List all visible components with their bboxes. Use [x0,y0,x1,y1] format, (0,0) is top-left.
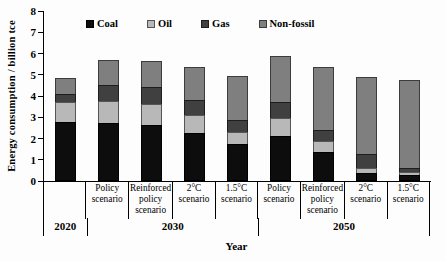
bar-segment-coal [98,123,119,181]
bar-segment-coal [270,136,291,181]
bar-segment-non-fossil [227,76,248,122]
legend-label: Coal [97,18,118,29]
scenario-cell: Policy scenario [258,181,300,219]
bar-segment-coal [356,173,377,182]
y-tick-mark [38,138,43,139]
y-tick-label: 1 [31,154,37,165]
y-tick-mark [38,32,43,33]
bar-slot [388,11,431,181]
bar-slot [259,11,302,181]
bar-slot [87,11,130,181]
legend-label: Non-fossil [270,18,315,29]
y-tick-mark [38,159,43,160]
bar-segment-gas [270,102,291,119]
legend: CoalOilGasNon-fossil [86,18,314,29]
bar-segment-non-fossil [184,67,205,101]
y-tick-mark [38,53,43,54]
bar-segment-non-fossil [98,60,119,87]
stacked-bar [270,57,291,181]
legend-swatch-oil-icon [147,20,155,28]
legend-item: Non-fossil [259,18,315,29]
year-row: 202020302050 [43,218,430,236]
legend-item: Oil [147,18,172,29]
y-tick-label: 0 [31,176,37,187]
scenario-cell: 2°C scenario [173,181,215,219]
bar-segment-non-fossil [270,56,291,104]
legend-swatch-coal-icon [86,20,94,28]
bar-segment-coal [184,133,205,181]
y-tick-mark [38,11,43,12]
stacked-bar [399,81,420,181]
y-tick-mark [38,117,43,118]
bar-segment-oil [270,118,291,137]
legend-label: Oil [158,18,172,29]
legend-swatch-non-fossil-icon [259,20,267,28]
y-tick-label: 7 [31,27,37,38]
y-tick-label: 8 [31,6,37,17]
bar-segment-coal [227,144,248,181]
scenario-cell: 1.5°C scenario [388,181,430,219]
bar-slot [130,11,173,181]
bar-segment-oil [184,115,205,134]
bar-segment-coal [55,122,76,182]
bar-segment-coal [141,125,162,181]
stacked-bar [227,77,248,181]
y-axis-label: Energy consumption / billion tce [6,20,17,172]
plot-area: CoalOilGasNon-fossil 012345678 [43,11,431,182]
bars-layer [44,11,431,181]
year-cell: 2050 [259,218,430,236]
stacked-bar [184,68,205,181]
y-tick-label: 2 [31,133,37,144]
bar-segment-oil [141,104,162,125]
stacked-bar [141,62,162,181]
y-tick-mark [38,74,43,75]
legend-item: Coal [86,18,118,29]
energy-consumption-chart: Energy consumption / billion tce CoalOil… [0,0,446,261]
scenario-cell: Reinforced policy scenario [301,181,345,219]
bar-segment-non-fossil [313,67,334,131]
bar-segment-non-fossil [356,77,377,156]
bar-segment-gas [98,85,119,102]
y-tick-label: 6 [31,48,37,59]
y-tick-mark [38,96,43,97]
y-tick-label: 3 [31,112,37,123]
y-tick-label: 5 [31,69,37,80]
bar-segment-gas [141,87,162,105]
bar-segment-oil [98,101,119,123]
bar-segment-non-fossil [141,61,162,89]
year-cell: 2020 [44,218,88,236]
scenario-cell: 2°C scenario [345,181,387,219]
scenario-cell: Policy scenario [86,181,128,219]
stacked-bar [313,68,334,181]
scenario-cell: 1.5°C scenario [216,181,258,219]
year-cell: 2030 [88,218,259,236]
legend-label: Gas [212,18,230,29]
legend-swatch-gas-icon [201,20,209,28]
scenario-cell: Reinforced policy scenario [129,181,173,219]
stacked-bar [55,79,76,181]
bar-slot [345,11,388,181]
bar-slot [216,11,259,181]
bar-segment-gas [356,154,377,169]
bar-slot [302,11,345,181]
bar-segment-non-fossil [399,80,420,169]
y-tick-label: 4 [31,91,37,102]
stacked-bar [356,78,377,181]
bar-segment-non-fossil [55,78,76,95]
legend-item: Gas [201,18,230,29]
stacked-bar [98,61,119,181]
bar-segment-oil [55,102,76,122]
scenario-cell [44,181,86,219]
x-axis-title: Year [43,240,430,252]
bar-slot [173,11,216,181]
scenario-row: Policy scenarioReinforced policy scenari… [43,181,430,219]
bar-segment-gas [184,100,205,116]
bar-slot [44,11,87,181]
bar-segment-coal [313,152,334,181]
